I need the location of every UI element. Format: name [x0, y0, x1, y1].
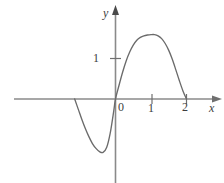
figure-container: y x 1 0 1 2: [0, 0, 224, 183]
origin-label: 0: [118, 101, 124, 113]
curve-path: [75, 34, 187, 152]
y-axis-label: y: [103, 7, 108, 19]
x-tick-label-1: 1: [148, 102, 154, 114]
x-axis-label: x: [209, 102, 214, 114]
y-tick-label-1: 1: [93, 52, 99, 64]
x-tick-label-2: 2: [182, 101, 188, 113]
plot-canvas: [0, 0, 224, 183]
y-axis-arrow-icon: [112, 5, 119, 15]
